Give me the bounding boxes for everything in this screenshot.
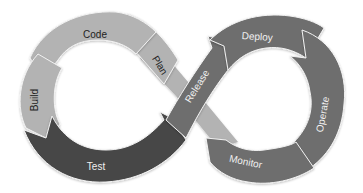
label-code: Code: [83, 29, 107, 40]
label-build: Build: [29, 89, 40, 111]
devops-infinity-diagram: Code Build Plan Test Release Deploy Oper…: [0, 0, 363, 193]
label-test: Test: [87, 161, 106, 172]
label-deploy: Deploy: [241, 30, 273, 43]
